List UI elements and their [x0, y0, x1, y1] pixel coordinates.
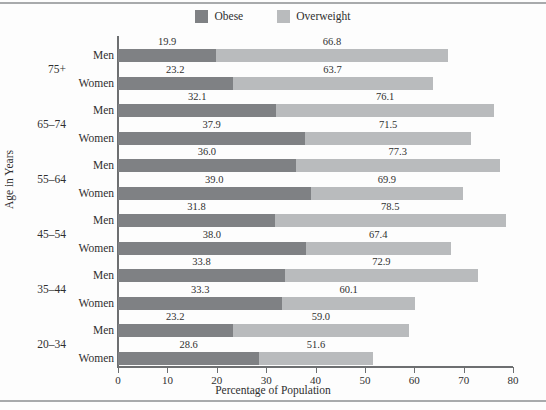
sex-label-men: Men [93, 105, 114, 117]
x-axis-tick [118, 367, 119, 373]
value-label-obese: 33.8 [192, 257, 210, 268]
bar-row[interactable] [118, 214, 506, 227]
bar-row[interactable] [118, 159, 500, 172]
sex-label-men: Men [93, 160, 114, 172]
value-label-obese: 23.2 [166, 65, 184, 76]
bar-row[interactable] [118, 242, 451, 255]
value-label-obese: 31.8 [187, 202, 205, 213]
bar-segment-obese[interactable] [118, 214, 275, 227]
bar-row[interactable] [118, 352, 373, 365]
value-label-overweight: 78.5 [381, 202, 399, 213]
value-label-overweight: 77.3 [389, 147, 407, 158]
bar-segment-obese[interactable] [118, 104, 276, 117]
legend-label: Obese [214, 11, 243, 23]
value-label-overweight: 59.0 [312, 312, 330, 323]
value-label-obese: 28.6 [179, 340, 197, 351]
x-axis-tick [167, 367, 168, 373]
value-label-obese: 39.0 [205, 175, 223, 186]
sex-label-women: Women [79, 353, 114, 365]
chart-legend: ObeseOverweight [0, 10, 546, 23]
sex-label-women: Women [79, 78, 114, 90]
value-label-obese: 32.1 [188, 92, 206, 103]
bar-segment-obese[interactable] [118, 132, 305, 145]
legend-item-overweight[interactable]: Overweight [277, 10, 350, 23]
value-label-overweight: 69.9 [378, 175, 396, 186]
bar-segment-obese[interactable] [118, 242, 306, 255]
sex-label-women: Women [79, 243, 114, 255]
value-label-overweight: 63.7 [323, 65, 341, 76]
value-label-obese: 19.9 [158, 37, 176, 48]
bar-row[interactable] [118, 187, 463, 200]
bar-row[interactable] [118, 132, 471, 145]
sex-label-men: Men [93, 270, 114, 282]
bar-segment-obese[interactable] [118, 324, 233, 337]
bar-row[interactable] [118, 324, 409, 337]
bar-segment-obese[interactable] [118, 77, 233, 90]
top-divider-rule [0, 2, 546, 4]
sex-label-women: Women [79, 133, 114, 145]
bar-row[interactable] [118, 297, 415, 310]
bar-segment-obese[interactable] [118, 269, 285, 282]
x-axis-tick [316, 367, 317, 373]
value-label-obese: 23.2 [166, 312, 184, 323]
value-label-obese: 33.3 [191, 285, 209, 296]
x-axis-tick [464, 367, 465, 373]
value-label-overweight: 66.8 [323, 37, 341, 48]
sex-label-men: Men [93, 325, 114, 337]
bar-segment-obese[interactable] [118, 297, 282, 310]
bar-row[interactable] [118, 49, 448, 62]
bar-segment-obese[interactable] [118, 159, 296, 172]
legend-swatch-icon [195, 10, 208, 23]
bar-row[interactable] [118, 269, 478, 282]
legend-swatch-icon [277, 10, 290, 23]
value-label-overweight: 72.9 [372, 257, 390, 268]
bottom-divider-rule [0, 400, 546, 402]
value-label-overweight: 76.1 [376, 92, 394, 103]
x-axis-tick [414, 367, 415, 373]
value-label-overweight: 51.6 [307, 340, 325, 351]
bar-row[interactable] [118, 77, 433, 90]
value-label-obese: 37.9 [202, 120, 220, 131]
value-label-obese: 38.0 [203, 230, 221, 241]
figure-container: ObeseOverweight 75+65–7455–6445–5435–442… [0, 0, 546, 410]
value-label-overweight: 67.4 [369, 230, 387, 241]
sex-label-women: Women [79, 188, 114, 200]
sex-label-men: Men [93, 215, 114, 227]
plot-area: 19.966.823.263.732.176.137.971.536.077.3… [118, 36, 513, 366]
bar-segment-obese[interactable] [118, 187, 311, 200]
value-label-overweight: 71.5 [379, 120, 397, 131]
sex-label-women: Women [79, 298, 114, 310]
x-axis-title: Percentage of Population [0, 385, 546, 397]
sex-label-men: Men [93, 50, 114, 62]
x-axis-tick [365, 367, 366, 373]
legend-label: Overweight [296, 11, 350, 23]
bar-segment-obese[interactable] [118, 49, 216, 62]
legend-item-obese[interactable]: Obese [195, 10, 243, 23]
y-axis-title: Age in Years [4, 150, 16, 209]
bar-segment-obese[interactable] [118, 352, 259, 365]
x-axis-tick [266, 367, 267, 373]
bar-row[interactable] [118, 104, 494, 117]
value-label-obese: 36.0 [198, 147, 216, 158]
value-label-overweight: 60.1 [339, 285, 357, 296]
x-axis-tick [217, 367, 218, 373]
x-axis-tick [513, 367, 514, 373]
sex-category-labels: MenWomenMenWomenMenWomenMenWomenMenWomen… [58, 36, 114, 366]
